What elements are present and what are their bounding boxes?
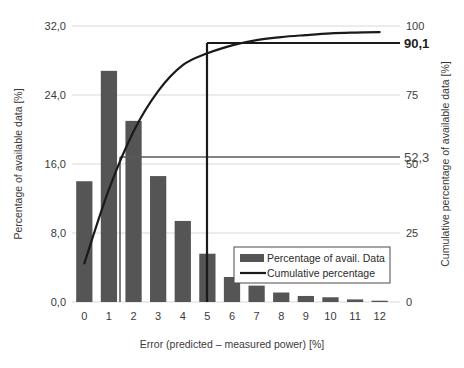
y-tick-label-32: 32,0 bbox=[45, 20, 66, 32]
legend-swatch-bar bbox=[240, 254, 264, 262]
y2-tick-label-75: 75 bbox=[406, 89, 418, 101]
y2-tick-label-100: 100 bbox=[406, 20, 424, 32]
x-tick-label-3: 3 bbox=[155, 310, 161, 322]
bar-11 bbox=[347, 299, 363, 302]
x-axis-title: Error (predicted – measured power) [%] bbox=[140, 338, 324, 350]
x-tick-label-9: 9 bbox=[303, 310, 309, 322]
bar-2 bbox=[125, 121, 141, 302]
bar-7 bbox=[248, 286, 264, 302]
y2-tick-label-0: 0 bbox=[406, 296, 412, 308]
annotation-52-3: 52,3 bbox=[404, 150, 429, 165]
bar-10 bbox=[322, 297, 338, 302]
legend-label-bar: Percentage of avail. Data bbox=[267, 252, 385, 264]
bar-12 bbox=[372, 301, 388, 302]
y-axis-title-left: Percentage of available data [%] bbox=[12, 88, 24, 239]
legend-label-line: Cumulative percentage bbox=[267, 267, 375, 279]
pareto-chart: 32,0 24,0 16,0 8,0 0,0 100 75 50 25 0 bbox=[0, 0, 464, 368]
chart-legend[interactable]: Percentage of avail. Data Cumulative per… bbox=[234, 247, 390, 283]
bar-0 bbox=[76, 181, 92, 302]
y2-tick-label-25: 25 bbox=[406, 227, 418, 239]
x-tick-label-8: 8 bbox=[278, 310, 284, 322]
x-tick-label-5: 5 bbox=[204, 310, 210, 322]
x-tick-label-6: 6 bbox=[229, 310, 235, 322]
annotation-90-1: 90,1 bbox=[404, 36, 429, 51]
x-tick-label-4: 4 bbox=[180, 310, 186, 322]
x-tick-label-1: 1 bbox=[106, 310, 112, 322]
bar-9 bbox=[298, 296, 314, 302]
x-tick-label-2: 2 bbox=[130, 310, 136, 322]
x-tick-label-10: 10 bbox=[324, 310, 336, 322]
bar-4 bbox=[175, 221, 191, 302]
bar-8 bbox=[273, 293, 289, 302]
y-axis-title-right: Cumulative percentage of available data … bbox=[439, 61, 451, 267]
x-tick-label-12: 12 bbox=[374, 310, 386, 322]
y-tick-label-24: 24,0 bbox=[45, 89, 66, 101]
x-tick-label-11: 11 bbox=[349, 310, 360, 322]
bar-3 bbox=[150, 176, 166, 302]
chart-canvas: 32,0 24,0 16,0 8,0 0,0 100 75 50 25 0 bbox=[0, 0, 464, 368]
y-tick-label-0: 0,0 bbox=[51, 296, 66, 308]
x-tick-label-0: 0 bbox=[81, 310, 87, 322]
y-tick-label-8: 8,0 bbox=[51, 227, 66, 239]
x-tick-label-7: 7 bbox=[254, 310, 260, 322]
y-tick-label-16: 16,0 bbox=[45, 158, 66, 170]
